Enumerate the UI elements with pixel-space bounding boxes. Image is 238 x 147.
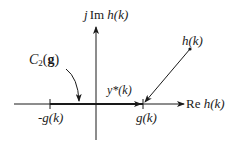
real-axis-label: Re h(k) <box>186 97 225 110</box>
projection-diagram: jIm h(k) Re h(k) h(k) C2(g) y*(k) -g(k) … <box>0 0 238 147</box>
constraint-set-label: C2(g) <box>29 53 59 68</box>
real-func: h(k) <box>204 96 225 111</box>
pos-g-label: g(k) <box>136 111 157 124</box>
h-to-g-arrow <box>145 49 190 102</box>
imag-j: j <box>84 7 88 22</box>
constraint-pointer-arrow <box>66 69 79 101</box>
neg-g-label: -g(k) <box>38 111 63 124</box>
constraint-close: ) <box>55 52 60 67</box>
constraint-C: C <box>29 52 38 67</box>
imag-axis-label: jIm h(k) <box>84 8 128 21</box>
imag-func: h(k) <box>107 7 128 22</box>
axes-and-arrows <box>0 0 238 147</box>
real-re: Re <box>186 96 200 111</box>
projection-label: y*(k) <box>107 84 132 96</box>
constraint-arg: g <box>48 52 55 67</box>
h-point-label: h(k) <box>182 34 203 47</box>
imag-im: Im <box>90 7 104 22</box>
